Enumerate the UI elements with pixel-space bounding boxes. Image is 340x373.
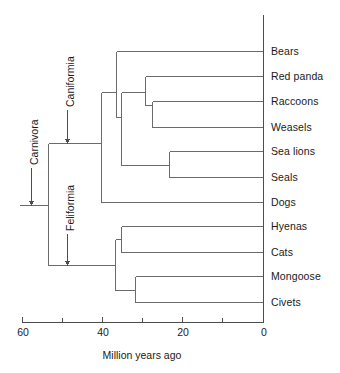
tip-label-dogs: Dogs <box>271 197 296 208</box>
tip-label-mongoose: Mongoose <box>271 271 321 282</box>
tip-label-bears: Bears <box>271 46 299 57</box>
tip-label-seals: Seals <box>271 172 298 183</box>
axis-tick-label-0: 0 <box>248 327 280 338</box>
axis-tick-label-40: 40 <box>87 327 119 338</box>
clade-label-caniformia: Caniformia <box>65 56 76 107</box>
tip-label-civets: Civets <box>271 297 301 308</box>
axis-tick-label-20: 20 <box>167 327 199 338</box>
tip-label-raccoons: Raccoons <box>271 96 319 107</box>
tip-label-cats: Cats <box>271 247 293 258</box>
clade-label-carnivora: Carnivora <box>29 119 40 165</box>
tip-label-hyenas: Hyenas <box>271 221 307 232</box>
tip-label-red-panda: Red panda <box>271 71 323 82</box>
tip-label-weasels: Weasels <box>271 122 312 133</box>
axis-title: Million years ago <box>62 349 222 361</box>
phylogenetic-tree-figure: Bears Red panda Raccoons Weasels Sea lio… <box>0 0 340 373</box>
clade-label-feliformia: Feliformia <box>65 185 76 231</box>
tip-label-sea-lions: Sea lions <box>271 146 315 157</box>
axis-tick-label-60: 60 <box>7 327 39 338</box>
